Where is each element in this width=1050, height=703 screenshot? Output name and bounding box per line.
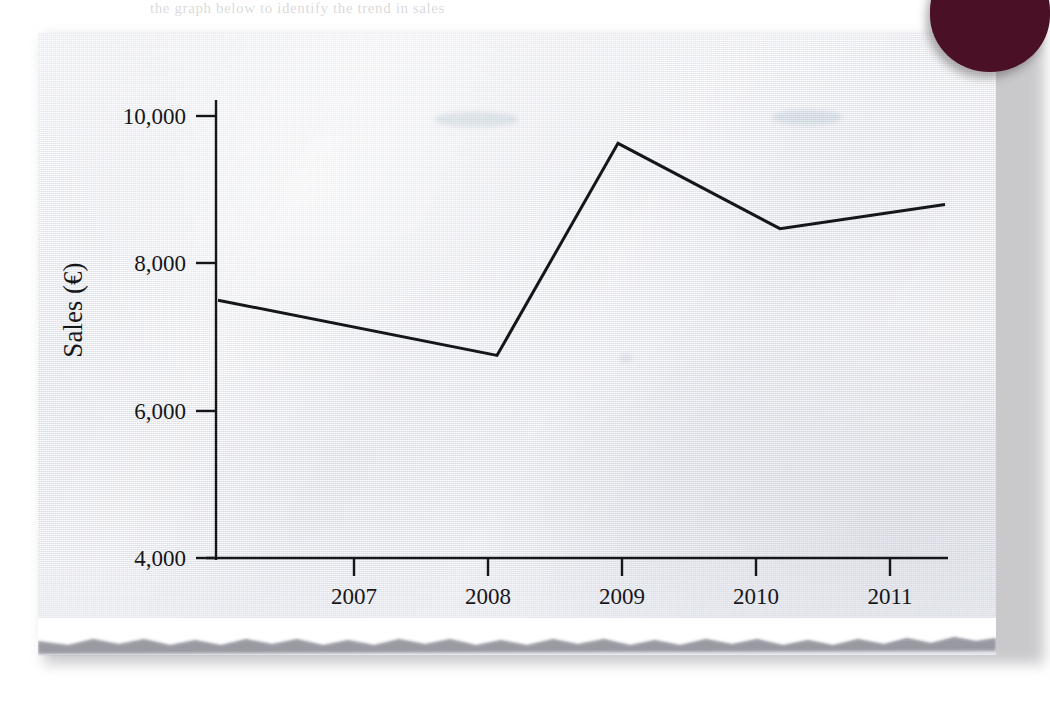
y-tick-label: 10,000 — [123, 104, 186, 129]
y-tick-label: 4,000 — [134, 546, 186, 571]
sales-line-series — [218, 143, 945, 355]
x-tick-label: 2010 — [733, 584, 779, 609]
x-tick-label: 2011 — [867, 584, 912, 609]
y-tick-label: 6,000 — [134, 399, 186, 424]
x-tick-label: 2007 — [331, 584, 377, 609]
x-tick-label: 2009 — [599, 584, 645, 609]
x-tick-label: 2008 — [465, 584, 511, 609]
y-tick-label: 8,000 — [134, 251, 186, 276]
y-axis-title: Sales (€) — [58, 262, 88, 357]
